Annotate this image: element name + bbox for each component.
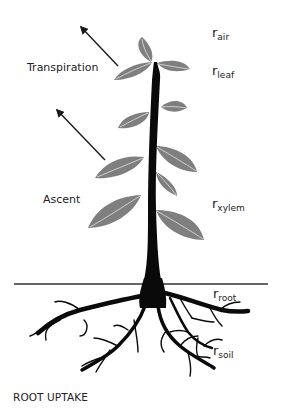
r-air-label: rair [212,26,229,42]
transpiration-label: Transpiration [27,62,98,73]
leaves [88,37,204,240]
stem [144,62,161,280]
r-leaf-label: rleaf [212,64,234,80]
diagram-title: ROOT UPTAKE [13,391,88,403]
ascent-arrow [57,110,105,160]
r-subscript: leaf [217,70,234,80]
r-soil-label: rsoil [213,344,234,360]
r-xylem-label: rxylem [212,197,245,213]
ascent-label: Ascent [43,194,80,205]
r-subscript: root [218,293,236,303]
leaf-icon [157,61,190,71]
r-root-label: rroot [213,287,236,303]
r-subscript: xylem [217,203,244,213]
r-subscript: air [217,32,229,42]
r-subscript: soil [218,350,233,360]
